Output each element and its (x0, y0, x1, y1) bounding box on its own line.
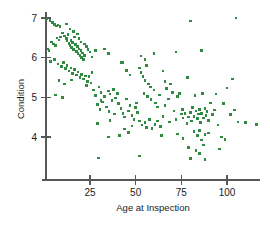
data-point (85, 45, 88, 48)
x-tick-group: 255075100 (84, 175, 235, 198)
data-point (114, 97, 117, 100)
data-point (144, 79, 147, 82)
data-point (80, 73, 83, 76)
data-point (125, 98, 128, 101)
data-point (122, 61, 125, 64)
data-point (195, 149, 198, 152)
data-point (70, 67, 73, 70)
x-tick-label: 25 (84, 187, 96, 198)
data-point (103, 48, 106, 51)
data-point (103, 95, 106, 98)
data-point (200, 139, 203, 142)
data-point (186, 122, 189, 125)
data-point (100, 99, 103, 102)
data-point (122, 112, 125, 115)
data-point (49, 60, 52, 63)
data-point (111, 99, 114, 102)
data-point (169, 83, 172, 86)
data-point (146, 95, 149, 98)
data-point (149, 86, 152, 89)
data-point (71, 41, 74, 44)
data-point (73, 68, 76, 71)
data-point (165, 87, 168, 90)
data-point (75, 74, 78, 77)
plot-area: 4567 255075100 Age at Inspection Conditi… (0, 0, 270, 227)
x-tick-label: 50 (130, 187, 142, 198)
x-tick-label: 75 (176, 187, 188, 198)
data-point (194, 94, 197, 97)
data-points-group (46, 17, 258, 161)
data-point (187, 116, 190, 119)
data-point (68, 70, 71, 73)
data-point (59, 36, 62, 39)
data-point (138, 67, 141, 70)
data-point (96, 103, 99, 106)
data-point (61, 32, 64, 35)
data-point (76, 33, 79, 36)
data-point (220, 136, 223, 139)
data-point (147, 83, 150, 86)
data-point (231, 78, 234, 81)
data-point (70, 46, 73, 49)
data-point (237, 121, 240, 124)
data-point (118, 134, 121, 137)
data-point (61, 96, 64, 99)
data-point (233, 109, 236, 112)
y-tick-label: 6 (31, 52, 37, 63)
data-point (168, 121, 171, 124)
data-point (175, 118, 178, 121)
data-point (143, 92, 146, 95)
data-point (86, 80, 89, 83)
x-tick-label: 100 (219, 187, 236, 198)
data-point (224, 138, 227, 141)
data-point (182, 137, 185, 140)
data-point (164, 80, 167, 83)
data-point (176, 133, 179, 136)
data-point (84, 75, 87, 78)
data-point (76, 45, 79, 48)
data-point (99, 108, 102, 111)
data-point (72, 48, 75, 51)
data-point (184, 112, 187, 115)
data-point (57, 63, 60, 66)
data-point (71, 72, 74, 75)
data-point (109, 93, 112, 96)
data-point (89, 51, 92, 54)
data-point (96, 122, 99, 125)
data-point (158, 94, 161, 97)
data-point (150, 98, 153, 101)
data-point (145, 126, 148, 129)
data-point (204, 133, 207, 136)
data-point (176, 95, 179, 98)
data-point (189, 20, 192, 23)
data-point (81, 52, 84, 55)
data-point (229, 113, 232, 116)
data-point (133, 118, 136, 121)
data-point (145, 64, 148, 67)
data-point (54, 44, 57, 47)
data-point (78, 37, 81, 40)
data-point (196, 117, 199, 120)
data-point (244, 121, 247, 124)
data-point (186, 76, 189, 79)
data-point (160, 134, 163, 137)
data-point (58, 39, 61, 42)
data-point (131, 114, 134, 117)
data-point (120, 107, 123, 110)
data-point (148, 118, 151, 121)
data-point (159, 125, 162, 128)
data-point (94, 94, 97, 97)
scatter-chart: 4567 255075100 Age at Inspection Conditi… (0, 0, 270, 227)
data-point (140, 55, 143, 58)
data-point (193, 130, 196, 133)
data-point (123, 128, 126, 131)
data-point (204, 107, 207, 110)
data-point (222, 102, 225, 105)
data-point (235, 17, 238, 20)
data-point (108, 110, 111, 113)
data-point (127, 131, 130, 134)
y-tick-group: 4567 (31, 13, 51, 143)
data-point (63, 83, 66, 86)
data-point (125, 69, 128, 72)
data-point (127, 110, 130, 113)
